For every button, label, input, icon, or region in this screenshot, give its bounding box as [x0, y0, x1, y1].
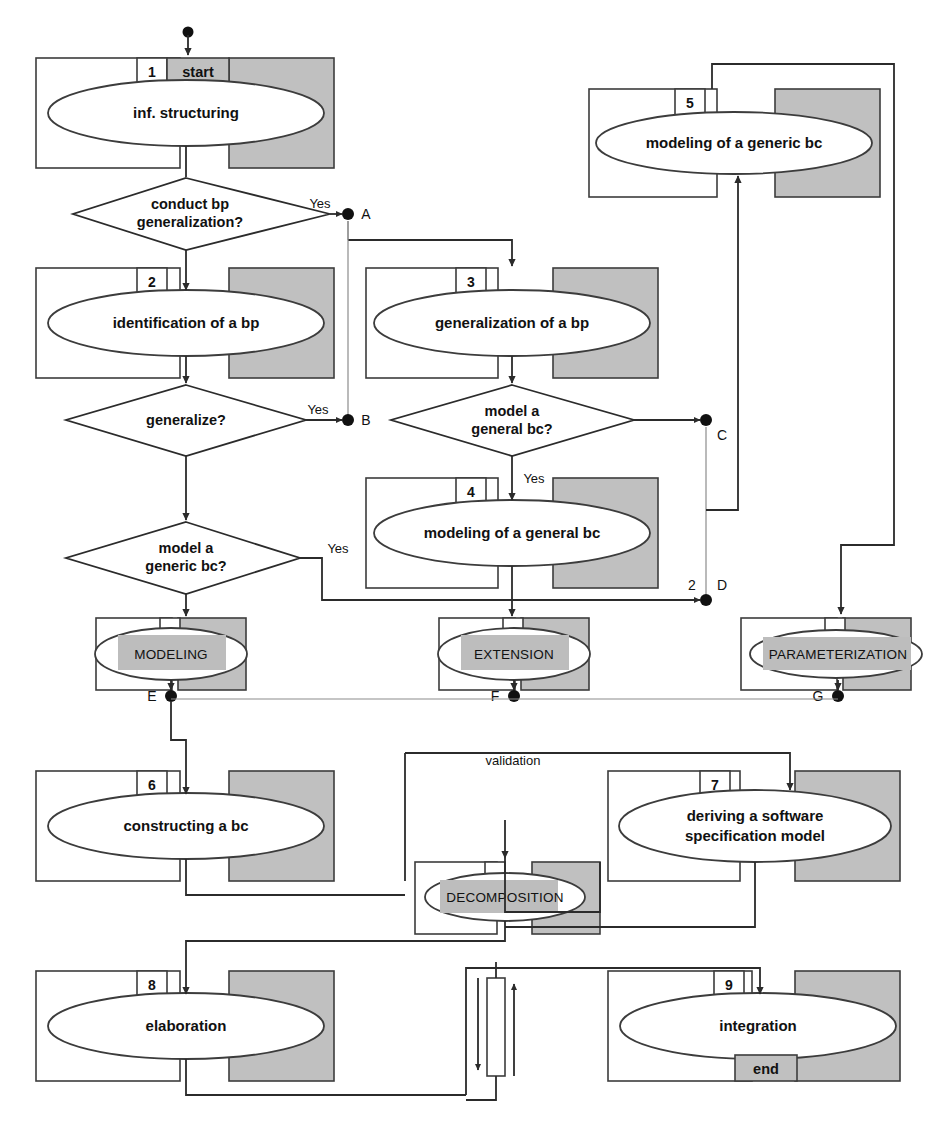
process-node-5[interactable]: 5 modeling of a generic bc — [589, 89, 880, 197]
node-8-number: 8 — [148, 977, 156, 993]
decision-model-a-general-bc[interactable]: model a general bc? — [391, 385, 634, 456]
connector-label-C: C — [717, 427, 727, 443]
decision-generalize[interactable]: generalize? — [66, 385, 306, 456]
sync-bar — [478, 978, 514, 1076]
subprocess-extension-label: EXTENSION — [474, 647, 554, 662]
edge-label-multiplicity-2: 2 — [688, 577, 696, 593]
edge-label-yes-d4: Yes — [523, 471, 545, 486]
node-3-number: 3 — [467, 274, 475, 290]
subprocess-node-parameterization[interactable]: PARAMETERIZATION — [741, 618, 922, 690]
decision-model-a-generic-bc[interactable]: model a generic bc? — [66, 522, 300, 594]
decision-d1-line1: conduct bp — [151, 196, 229, 212]
edge-A-to-n3 — [348, 240, 512, 266]
decision-d3-line2: generic bc? — [145, 558, 227, 574]
subprocess-node-extension[interactable]: EXTENSION — [438, 618, 590, 690]
connector-dot-B — [342, 414, 354, 426]
node-5-label: modeling of a generic bc — [646, 134, 823, 151]
process-node-9[interactable]: 9 integration end — [608, 971, 900, 1081]
sync-bar-bottom-stub — [466, 1076, 496, 1100]
flowchart-canvas: 1 start inf. structuring 2 identificatio… — [0, 0, 941, 1127]
node-6-number: 6 — [148, 777, 156, 793]
node-7-label: deriving a software — [687, 807, 824, 824]
node-1-tag-start: start — [182, 64, 214, 80]
node-4-label: modeling of a general bc — [424, 524, 601, 541]
edge-label-yes-d1: Yes — [309, 196, 331, 211]
decision-d4-line2: general bc? — [471, 421, 553, 437]
connector-label-A: A — [361, 206, 371, 222]
node-4-number: 4 — [467, 484, 475, 500]
edge-label-validation: validation — [486, 753, 541, 768]
node-9-tag-end: end — [753, 1061, 779, 1077]
node-7-number: 7 — [711, 777, 719, 793]
node-6-label: constructing a bc — [123, 817, 248, 834]
flowchart-svg: 1 start inf. structuring 2 identificatio… — [0, 0, 941, 1127]
decision-d3-line1: model a — [159, 540, 215, 556]
connector-dot-G — [832, 690, 844, 702]
subprocess-parameterization-label: PARAMETERIZATION — [769, 647, 907, 662]
process-node-2[interactable]: 2 identification of a bp — [36, 268, 334, 378]
process-node-7[interactable]: 7 deriving a software specification mode… — [608, 771, 900, 881]
subprocess-node-decomposition[interactable]: DECOMPOSITION — [415, 862, 600, 934]
connector-label-B: B — [361, 412, 370, 428]
connector-label-E: E — [147, 688, 156, 704]
connector-label-G: G — [813, 688, 824, 704]
decision-d4-line1: model a — [485, 403, 541, 419]
connector-dot-C — [700, 414, 712, 426]
connector-dot-F — [508, 690, 520, 702]
node-2-number: 2 — [148, 274, 156, 290]
connector-label-D: D — [717, 577, 727, 593]
node-7-label2: specification model — [685, 827, 825, 844]
node-1-label: inf. structuring — [133, 104, 239, 121]
process-node-8[interactable]: 8 elaboration — [36, 971, 334, 1081]
decision-d2-line1: generalize? — [146, 412, 226, 428]
node-9-label: integration — [719, 1017, 797, 1034]
edge-label-yes-d2: Yes — [307, 402, 329, 417]
edge-label-yes-d3: Yes — [327, 541, 349, 556]
subprocess-node-modeling[interactable]: MODELING — [95, 618, 247, 690]
node-8-label: elaboration — [146, 1017, 227, 1034]
node-3-label: generalization of a bp — [435, 314, 589, 331]
process-node-1[interactable]: 1 start inf. structuring — [36, 58, 334, 168]
node-2-label: identification of a bp — [113, 314, 260, 331]
node-5-number: 5 — [686, 95, 694, 111]
process-node-6[interactable]: 6 constructing a bc — [36, 771, 334, 881]
decision-d1-line2: generalization? — [137, 214, 243, 230]
subprocess-modeling-label: MODELING — [134, 647, 208, 662]
decision-conduct-bp-generalization[interactable]: conduct bp generalization? — [73, 178, 330, 250]
node-1-number: 1 — [148, 64, 156, 80]
connector-label-F: F — [491, 688, 500, 704]
edge-C-to-n5 — [706, 176, 738, 510]
connector-dot-D — [700, 594, 712, 606]
connector-dot-A — [342, 208, 354, 220]
node-9-number: 9 — [725, 977, 733, 993]
connector-dot-E — [165, 690, 177, 702]
